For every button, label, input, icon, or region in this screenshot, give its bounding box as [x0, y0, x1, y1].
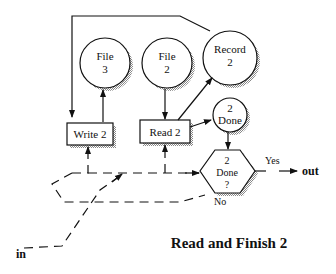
decision-number: 2	[225, 155, 230, 166]
node-file2: File 2	[142, 38, 195, 91]
node-read2: Read 2	[140, 120, 193, 146]
file2-number: 2	[164, 63, 170, 75]
done2-label: Done	[218, 114, 242, 126]
file3-label: File	[96, 50, 113, 62]
decision-question: ?	[225, 179, 230, 190]
write2-label: Write 2	[74, 128, 107, 140]
file2-label: File	[158, 50, 175, 62]
yes-label: Yes	[265, 155, 280, 166]
node-decision: 2 Done ?	[200, 150, 258, 196]
out-label: out	[302, 164, 319, 178]
decision-label: Done	[216, 167, 238, 178]
file3-number: 3	[102, 63, 108, 75]
dashed-edges	[24, 145, 205, 248]
done2-number: 2	[227, 102, 233, 114]
node-done2: 2 Done	[213, 98, 250, 135]
no-label: No	[214, 196, 226, 207]
record2-number: 2	[227, 56, 233, 68]
in-label: in	[16, 247, 26, 261]
read2-label: Read 2	[150, 126, 181, 138]
node-file3: File 3	[80, 38, 133, 91]
node-write2: Write 2	[67, 123, 116, 148]
diagram-title: Read and Finish 2	[171, 235, 287, 251]
dashed-arrowheads	[80, 145, 199, 182]
record2-label: Record	[214, 43, 246, 55]
edge-yes: Yes out	[255, 155, 319, 178]
